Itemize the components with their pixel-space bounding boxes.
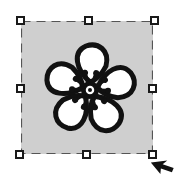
resize-handle-bottom-center[interactable] bbox=[82, 150, 91, 159]
resize-handle-top-center[interactable] bbox=[84, 16, 93, 25]
flower-icon[interactable] bbox=[40, 40, 140, 140]
arrow-cursor-icon bbox=[151, 154, 177, 180]
resize-handle-middle-right[interactable] bbox=[148, 84, 157, 93]
resize-handle-top-right[interactable] bbox=[150, 16, 159, 25]
resize-handle-bottom-left[interactable] bbox=[15, 150, 24, 159]
resize-handle-top-left[interactable] bbox=[16, 16, 25, 25]
resize-handle-middle-left[interactable] bbox=[16, 84, 25, 93]
